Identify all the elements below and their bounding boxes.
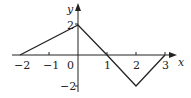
tick-y-m2: −2 bbox=[60, 80, 76, 93]
tick-x-3: 3 bbox=[162, 59, 169, 72]
tick-x-m2: −2 bbox=[14, 59, 30, 72]
tick-x-2: 2 bbox=[133, 59, 140, 72]
chart: −2 −1 0 1 2 3 x y 2 −2 bbox=[0, 0, 191, 98]
x-axis-arrow-icon bbox=[169, 52, 177, 58]
y-axis-label: y bbox=[66, 3, 74, 16]
y-axis-arrow-icon bbox=[75, 3, 81, 11]
tick-x-m1: −1 bbox=[43, 59, 59, 72]
tick-x-0: 0 bbox=[67, 59, 74, 72]
axes bbox=[12, 8, 172, 92]
tick-x-1: 1 bbox=[104, 59, 111, 72]
tick-y-2: 2 bbox=[67, 19, 74, 32]
x-axis-label: x bbox=[178, 56, 185, 69]
